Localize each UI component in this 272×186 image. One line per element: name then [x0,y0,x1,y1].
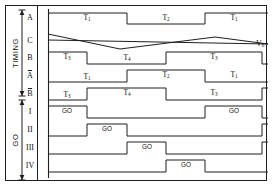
signal-row-i: IGOGO [29,104,268,119]
segment-label-go: GO [102,125,112,132]
row-label-iii: III [26,143,34,152]
segment-label-subscript: 3 [215,55,218,61]
segment-label-t1: T1 [83,13,91,22]
segment-label-go: GO [181,161,191,168]
waveform-iv [48,160,268,172]
group-bracket-arrow [20,175,25,180]
group-bracket-arrow [20,10,25,15]
signal-label-subscript: 6 [262,43,265,49]
segment-label-subscript: 3 [68,93,71,99]
signal-row-ii: IIGO [27,122,268,137]
signal-row-iv: IVGO [26,158,268,173]
segment-label-t3: T3 [210,88,218,97]
row-label-not-a: A [27,71,33,80]
timing-diagram: TIMINGGOAT1T2T1CBT3T4T3AT1T2T1BT3T4T3IGO… [0,0,272,186]
segment-label-subscript: 3 [68,55,71,61]
row-label-a: A [27,13,33,22]
signal-row-not-a: AT1T2T1 [27,68,268,83]
segment-label-t4: T4 [123,88,131,97]
row-label-iv: IV [26,161,35,170]
group-bracket-arrow [20,100,25,105]
group-bracket-arrow [20,91,25,96]
row-label-i: I [29,107,32,116]
segment-label-subscript: 2 [167,73,170,79]
segment-label-subscript: 4 [128,91,131,97]
segment-label-t3: T3 [63,90,71,99]
segment-label-go: GO [229,107,239,114]
segment-label-t1: T1 [230,70,238,79]
segment-label-t4: T4 [123,53,131,62]
segment-label-subscript: 1 [88,16,91,22]
signal-row-a: AT1T2T1 [27,13,268,24]
row-label-b: B [27,53,32,62]
group-label-go: GO [11,133,20,146]
waveform-c-ramp [48,40,268,44]
segment-label-subscript: 1 [235,16,238,22]
waveform-not-b [48,88,268,100]
segment-label-t3: T3 [63,52,71,61]
waveform-iii [48,142,268,154]
row-label-not-b: B [27,89,32,98]
segment-label-subscript: 3 [215,91,218,97]
row-label-ii: II [27,125,33,134]
waveform-ii [48,124,268,136]
signal-row-iii: IIIGO [26,140,268,155]
segment-label-subscript: 2 [167,16,170,22]
signal-row-b: BT3T4T3 [27,50,268,65]
group-label-timing: TIMING [11,38,20,68]
segment-label-subscript: 1 [88,75,91,81]
segment-label-t1: T1 [230,13,238,22]
segment-label-t1: T1 [83,72,91,81]
segment-label-t2: T2 [162,13,170,22]
segment-label-go: GO [142,143,152,150]
signal-row-c: C [27,31,268,50]
segment-label-go: GO [62,107,72,114]
segment-label-t3: T3 [210,52,218,61]
timing-diagram-canvas: TIMINGGOAT1T2T1CBT3T4T3AT1T2T1BT3T4T3IGO… [0,0,272,186]
segment-label-subscript: 1 [235,73,238,79]
segment-label-t2: T2 [162,70,170,79]
row-label-c: C [27,36,32,45]
signal-row-not-b: BT3T4T3 [27,86,268,101]
signal-label-v6: V6 [256,39,265,49]
waveform-b [48,52,268,64]
segment-label-subscript: 4 [128,56,131,62]
